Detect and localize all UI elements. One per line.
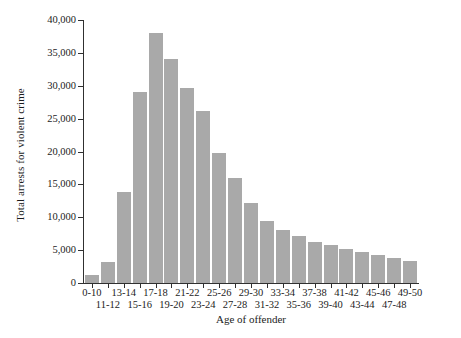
- y-tick-label: 35,000: [26, 48, 76, 58]
- x-tick-label: 41-42: [330, 287, 362, 299]
- bar: [117, 192, 131, 283]
- x-tick-label: 0-10: [76, 287, 108, 299]
- x-tick-mark: [124, 284, 125, 288]
- x-tick-label: 15-16: [124, 299, 156, 311]
- x-tick-label: 17-18: [140, 287, 172, 299]
- x-tick-mark: [219, 284, 220, 288]
- bar: [276, 230, 290, 283]
- x-tick-label: 11-12: [92, 299, 124, 311]
- x-tick-mark: [283, 284, 284, 288]
- x-tick-mark: [315, 284, 316, 288]
- bar-chart-figure: Total arrests for violent crime 05,00010…: [0, 0, 461, 338]
- bar: [371, 255, 385, 283]
- bar: [149, 33, 163, 283]
- bar: [308, 242, 322, 283]
- x-tick-label: 49-50: [394, 287, 426, 299]
- x-tick-mark: [203, 284, 204, 288]
- x-tick-label: 29-30: [235, 287, 267, 299]
- bar: [260, 221, 274, 283]
- x-tick-label: 37-38: [299, 287, 331, 299]
- x-tick-label: 13-14: [108, 287, 140, 299]
- bar: [228, 178, 242, 283]
- bar: [133, 92, 147, 283]
- y-tick-mark: [78, 119, 84, 120]
- x-tick-label: 47-48: [378, 299, 410, 311]
- y-tick-mark: [78, 20, 84, 21]
- x-tick-mark: [187, 284, 188, 288]
- y-tick-label: 15,000: [26, 179, 76, 189]
- x-tick-mark: [156, 284, 157, 288]
- bar: [101, 262, 115, 283]
- bar: [244, 203, 258, 283]
- y-tick-label: 25,000: [26, 114, 76, 124]
- x-tick-mark: [108, 284, 109, 288]
- bar: [212, 153, 226, 283]
- y-tick-mark: [78, 53, 84, 54]
- x-axis-tick-labels: 0-1011-1213-1415-1617-1819-2021-2223-242…: [84, 287, 424, 315]
- x-tick-label: 23-24: [187, 299, 219, 311]
- x-tick-label: 25-26: [203, 287, 235, 299]
- y-tick-mark: [78, 184, 84, 185]
- x-tick-label: 43-44: [346, 299, 378, 311]
- x-tick-mark: [171, 284, 172, 288]
- x-tick-mark: [362, 284, 363, 288]
- plot-area: [84, 20, 418, 283]
- x-axis-title: Age of offender: [84, 313, 418, 325]
- x-tick-mark: [346, 284, 347, 288]
- x-tick-mark: [394, 284, 395, 288]
- bar: [355, 252, 369, 283]
- y-tick-mark: [78, 86, 84, 87]
- x-tick-mark: [378, 284, 379, 288]
- x-tick-label: 21-22: [171, 287, 203, 299]
- y-tick-label: 40,000: [26, 15, 76, 25]
- bar: [164, 59, 178, 283]
- x-tick-label: 33-34: [267, 287, 299, 299]
- x-tick-mark: [92, 284, 93, 288]
- x-tick-label: 39-40: [315, 299, 347, 311]
- y-tick-label: 0: [26, 278, 76, 288]
- x-tick-mark: [251, 284, 252, 288]
- y-axis-tick-labels: 05,00010,00015,00020,00025,00030,00035,0…: [26, 0, 76, 338]
- bar: [180, 88, 194, 283]
- y-tick-mark: [78, 283, 84, 284]
- y-tick-label: 30,000: [26, 81, 76, 91]
- y-tick-label: 5,000: [26, 245, 76, 255]
- bar: [339, 249, 353, 283]
- x-tick-label: 27-28: [219, 299, 251, 311]
- bar: [387, 258, 401, 283]
- x-tick-label: 35-36: [283, 299, 315, 311]
- x-tick-label: 45-46: [362, 287, 394, 299]
- x-tick-mark: [331, 284, 332, 288]
- bar: [85, 275, 99, 283]
- y-tick-mark: [78, 250, 84, 251]
- bar: [324, 245, 338, 283]
- x-tick-mark: [410, 284, 411, 288]
- y-tick-label: 10,000: [26, 212, 76, 222]
- y-tick-mark: [78, 217, 84, 218]
- x-tick-mark: [267, 284, 268, 288]
- x-tick-mark: [299, 284, 300, 288]
- y-tick-label: 20,000: [26, 147, 76, 157]
- bar: [403, 261, 417, 283]
- bar: [196, 111, 210, 283]
- x-tick-label: 31-32: [251, 299, 283, 311]
- x-tick-label: 19-20: [155, 299, 187, 311]
- y-tick-mark: [78, 152, 84, 153]
- x-tick-mark: [235, 284, 236, 288]
- x-tick-mark: [140, 284, 141, 288]
- bar: [292, 236, 306, 283]
